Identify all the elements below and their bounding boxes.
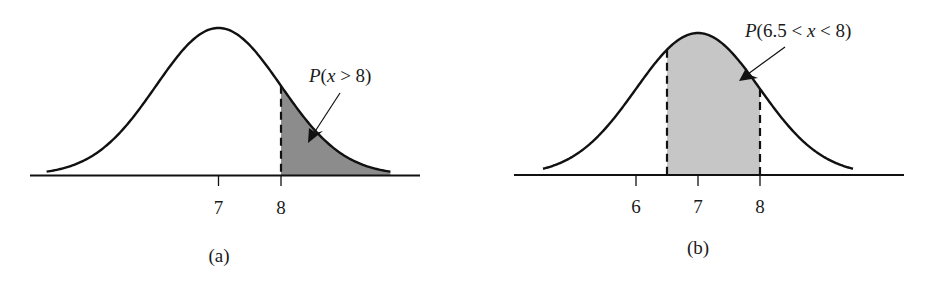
tick-label-6: 6 — [631, 196, 641, 217]
annotation-p-x-gt-8: P(x > 8) — [308, 65, 371, 87]
tick-label-7: 7 — [693, 196, 703, 217]
annotation-p-6.5-lt-x-lt-8: P(6.5 < x < 8) — [744, 20, 851, 42]
panel-caption-a: (a) — [208, 245, 229, 267]
normal-distribution-figure: 7 8 P(x > 8) (a) 6 7 8 P(6.5 < x < 8) (b… — [0, 0, 947, 294]
panel-caption-b: (b) — [687, 237, 709, 259]
annotation-arrow — [308, 93, 340, 143]
shaded-area-between-6.5-and-8 — [667, 33, 760, 175]
tick-label-7: 7 — [214, 197, 224, 218]
tick-label-8: 8 — [755, 196, 765, 217]
panel-b: 6 7 8 P(6.5 < x < 8) (b) — [514, 20, 904, 259]
normal-curve — [47, 28, 391, 172]
annotation-arrow — [739, 47, 785, 81]
panel-a: 7 8 P(x > 8) (a) — [30, 28, 420, 267]
tick-label-8: 8 — [276, 197, 286, 218]
